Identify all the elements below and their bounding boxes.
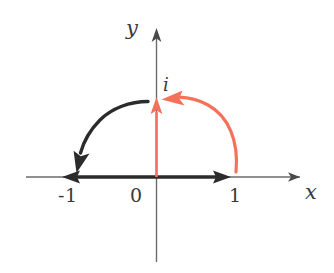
tick-label-negative-one: -1	[58, 186, 78, 205]
imaginary-unit-label: i	[163, 76, 169, 94]
complex-plane-figure: y x i -1 0 1	[0, 0, 334, 273]
real-axis-double-arrow	[62, 171, 231, 184]
y-axis-label: y	[126, 18, 138, 39]
black-arc-path	[81, 102, 149, 154]
rotation-arc-i-to-minus-one	[74, 102, 148, 174]
rotation-arc-one-to-i	[162, 91, 237, 173]
x-axis-label: x	[305, 182, 317, 203]
imaginary-unit-vector	[151, 97, 163, 177]
axis-lines	[26, 28, 300, 262]
tick-label-one: 1	[229, 186, 241, 205]
red-arc-path	[179, 97, 236, 172]
origin-label: 0	[130, 186, 142, 205]
figure-canvas	[0, 0, 334, 273]
